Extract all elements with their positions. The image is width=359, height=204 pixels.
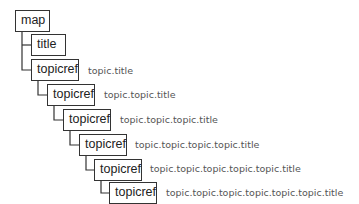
node-label: topicref — [37, 62, 78, 76]
node-topicref-6: topicref — [109, 182, 157, 204]
connector-topicref-3-topicref-4 — [70, 131, 79, 145]
node-topicref-2: topicref — [47, 84, 95, 106]
dita-map-hierarchy-diagram: map title topicref topic.title topicref … — [0, 0, 359, 204]
node-topicref-3: topicref — [63, 109, 111, 131]
node-topicref-5: topicref — [94, 159, 142, 181]
node-label: topicref — [100, 162, 141, 176]
connector-topicref-2-topicref-3 — [54, 106, 63, 120]
annotation-topicref-4: topic.topic.topic.topic.title — [135, 139, 259, 151]
node-topicref-4: topicref — [79, 134, 127, 156]
annotation-topicref-3: topic.topic.topic.title — [120, 114, 218, 126]
node-label: topicref — [69, 112, 110, 126]
node-topicref-1: topicref — [31, 59, 79, 81]
node-label: title — [37, 37, 56, 51]
annotation-topicref-5: topic.topic.topic.topic.topic.title — [150, 163, 301, 175]
annotation-topicref-1: topic.title — [88, 65, 133, 77]
node-label: topicref — [85, 137, 126, 151]
node-title: title — [31, 34, 66, 56]
node-map: map — [15, 10, 50, 32]
annotation-topicref-6: topic.topic.topic.topic.topic.topic.titl… — [166, 187, 343, 199]
connector-topicref-5-topicref-6 — [101, 181, 109, 193]
connector-topicref-1-topicref-2 — [38, 81, 47, 95]
connector-map-topicref-1 — [22, 32, 31, 70]
node-label: topicref — [115, 185, 156, 199]
node-label: map — [21, 13, 45, 27]
annotation-topicref-2: topic.topic.title — [104, 89, 175, 101]
connector-topicref-4-topicref-5 — [86, 156, 94, 170]
node-label: topicref — [53, 87, 94, 101]
